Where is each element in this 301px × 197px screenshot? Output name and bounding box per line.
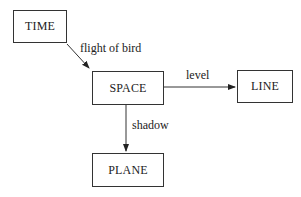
node-line: LINE — [237, 70, 293, 103]
node-space: SPACE — [92, 71, 164, 105]
node-time-label: TIME — [25, 19, 55, 34]
node-plane: PLANE — [92, 153, 164, 187]
node-line-label: LINE — [251, 79, 279, 94]
node-plane-label: PLANE — [108, 163, 148, 178]
edge-label-level: level — [186, 68, 209, 83]
edge-label-flight-of-bird: flight of bird — [80, 41, 141, 56]
node-time: TIME — [13, 10, 67, 43]
node-space-label: SPACE — [109, 81, 146, 96]
edge-label-shadow: shadow — [132, 118, 169, 133]
